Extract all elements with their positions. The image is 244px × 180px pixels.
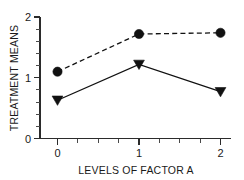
data-point-triangle: [215, 88, 226, 97]
x-axis-title: LEVELS OF FACTOR A: [78, 164, 193, 176]
x-tick-label-2: 2: [217, 147, 223, 159]
y-tick-label-1: 1: [25, 72, 31, 84]
x-tick-label-1: 1: [136, 147, 142, 159]
plot-area: 0 1 2 0 1 2 LEVELS OF FACTOR A TREATMENT…: [0, 0, 244, 180]
y-axis-title: TREATMENT MEANS: [8, 25, 20, 131]
y-tick-label-0: 0: [25, 133, 31, 145]
x-tick-label-0: 0: [54, 147, 60, 159]
y-tick-label-2: 2: [25, 11, 31, 23]
series-markers-triangle: [52, 60, 226, 105]
data-point-triangle: [134, 60, 145, 69]
data-point-circle: [134, 29, 143, 38]
y-axis-major-ticks: [34, 17, 40, 139]
data-point-circle: [216, 28, 225, 37]
x-axis-major-ticks: [58, 139, 221, 145]
chart-figure: 0 1 2 0 1 2 LEVELS OF FACTOR A TREATMENT…: [0, 0, 244, 180]
data-point-triangle: [52, 96, 63, 105]
data-point-circle: [53, 67, 62, 76]
